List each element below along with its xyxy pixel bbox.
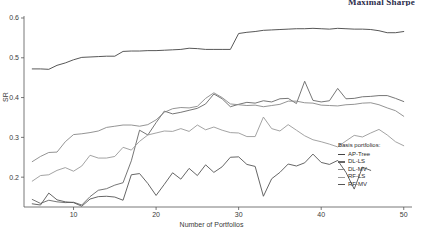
- x-tick-label: 30: [235, 211, 243, 218]
- legend-item-label: AP-Tree: [348, 151, 370, 159]
- y-tick-label: 0.4: [9, 94, 19, 101]
- y-tick-label: 0.2: [9, 174, 19, 181]
- series-line-rf-mv: [32, 154, 370, 206]
- legend-item-dl-mv[interactable]: DL-MV: [338, 166, 380, 174]
- legend-line-swatch-icon: [338, 169, 345, 170]
- x-tick-label: 50: [400, 211, 408, 218]
- x-tick-label: 20: [152, 211, 160, 218]
- legend-item-rf-mv[interactable]: RF-MV: [338, 181, 380, 189]
- legend-line-swatch-icon: [338, 177, 345, 178]
- chart-figure: Maximal Sharpe 0.20.30.40.50.6 102030405…: [0, 0, 423, 231]
- legend-item-label: RF-LS: [348, 173, 365, 181]
- x-tick-label: 40: [317, 211, 325, 218]
- y-axis-title: SR: [2, 92, 9, 102]
- legend-item-ap-tree[interactable]: AP-Tree: [338, 151, 380, 159]
- chart-legend: Basis portfolios: AP-TreeDL-LSDL-MVRF-LS…: [338, 142, 380, 189]
- legend-line-swatch-icon: [338, 184, 345, 185]
- legend-items: AP-TreeDL-LSDL-MVRF-LSRF-MV: [338, 151, 380, 189]
- legend-item-label: DL-MV: [348, 166, 367, 174]
- y-tick-label: 0.5: [9, 54, 19, 61]
- x-tick-label: 10: [70, 211, 78, 218]
- legend-title: Basis portfolios:: [338, 142, 380, 150]
- legend-item-label: RF-MV: [348, 181, 367, 189]
- legend-item-dl-ls[interactable]: DL-LS: [338, 158, 380, 166]
- y-tick-group: 0.20.30.40.50.6: [9, 14, 24, 180]
- legend-line-swatch-icon: [338, 161, 345, 162]
- legend-item-label: DL-LS: [348, 158, 365, 166]
- y-tick-label: 0.3: [9, 134, 19, 141]
- line-chart-plot: 0.20.30.40.50.6 1020304050: [0, 0, 423, 231]
- x-tick-group: 1020304050: [70, 207, 408, 218]
- legend-line-swatch-icon: [338, 154, 345, 155]
- series-line-ap-tree: [32, 28, 403, 69]
- y-tick-label: 0.6: [9, 14, 19, 21]
- x-axis-title: Number of Portfolios: [0, 221, 423, 228]
- legend-item-rf-ls[interactable]: RF-LS: [338, 173, 380, 181]
